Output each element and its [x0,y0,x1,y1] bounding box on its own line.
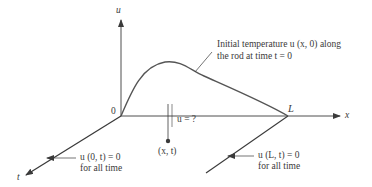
u-axis-label: u [116,5,121,16]
L-label: L [288,103,294,114]
right-bc-label-line1: u (L, t) = 0 [258,150,300,161]
unknown-u-label: u = ? [177,114,196,125]
left-bc-label-line1: u (0, t) = 0 [80,152,120,163]
left-bc-label-line2: for all time [80,163,122,174]
t-axis-label: t [17,172,20,183]
curve-leader-line [195,52,212,72]
point-label: (x, t) [158,146,176,157]
origin-label: 0 [111,106,116,117]
right-bc-label-line2: for all time [258,161,300,172]
x-axis-label: x [345,110,349,121]
initial-temperature-label-line1: Initial temperature u (x, 0) along [217,39,341,50]
point-marker [166,139,170,143]
initial-temperature-label-line2: the rod at time t = 0 [217,51,292,62]
initial-temperature-curve [121,62,288,116]
heat-equation-diagram [0,0,372,187]
